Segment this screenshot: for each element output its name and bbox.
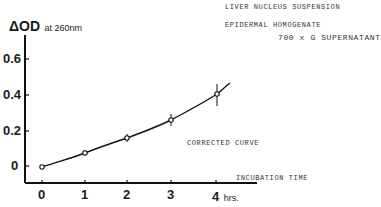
data-point: [40, 165, 44, 169]
data-points: [40, 92, 219, 169]
x-tick-label: 1: [81, 187, 88, 202]
curve-label: CORRECTED CURVE: [187, 139, 259, 147]
data-point: [169, 118, 173, 122]
annotation-epidermal: EPIDERMAL HOMOGENATE: [225, 21, 321, 29]
annotation-supernatant: 700 x G SUPERNATANT: [278, 33, 381, 42]
x-tick-label: 2: [123, 187, 130, 202]
y-tick-label: 0: [11, 158, 18, 173]
y-tick-label: 0.4: [3, 87, 21, 102]
data-point: [215, 92, 219, 96]
y-axis-title-symbol: ΔOD: [9, 18, 40, 34]
x-tick-label-last: 4 hrs.: [212, 187, 239, 205]
y-tick-label: 0.2: [3, 123, 21, 138]
x-tick-label: 3: [167, 187, 174, 202]
x-unit-label: hrs.: [224, 193, 239, 203]
y-axis-title-suffix: at 260nm: [45, 23, 83, 33]
x-tick-label: 4: [212, 189, 219, 204]
y-tick-label: 0.6: [3, 51, 21, 66]
x-tick-label: 0: [38, 187, 45, 202]
data-point: [83, 151, 87, 155]
x-axis-title: INCUBATION TIME: [236, 174, 308, 182]
annotation-liver-nucleus: LIVER NUCLEUS SUSPENSION: [225, 3, 340, 11]
data-point: [125, 136, 129, 140]
y-axis-title: ΔOD at 260nm: [9, 17, 82, 35]
corrected-curve-line: [42, 83, 230, 167]
